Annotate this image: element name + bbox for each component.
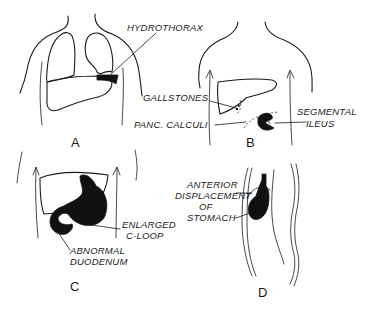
panel-letter-c: C (70, 279, 79, 294)
lung-right-a (85, 33, 113, 74)
label-panc-calculi: PANC. CALCULI (134, 119, 208, 130)
body-back-outer-d (290, 164, 295, 284)
ileus-leader (275, 122, 306, 123)
liver-a (47, 76, 112, 111)
stomach-fill-d (248, 174, 269, 219)
stomach-leader (236, 213, 250, 218)
liver-b (218, 79, 277, 114)
flank-right-a (122, 68, 123, 125)
flank-right-c-arrow (113, 167, 120, 175)
flank-left-b-arrow (206, 70, 213, 78)
body-front-inner-d (247, 168, 256, 276)
stomach-fill-c (64, 175, 107, 226)
torso-outline-b-right (265, 22, 312, 92)
label-gallstones: GALLSTONES (143, 92, 209, 103)
segmental-ileus-fill (258, 113, 274, 130)
panel-letter-d: D (258, 285, 267, 300)
flank-right-b-arrow (287, 70, 294, 78)
flank-right-c (116, 168, 117, 238)
flank-left-b (209, 72, 210, 145)
panel-letter-a: A (71, 135, 80, 150)
hydrothorax-leader (108, 33, 156, 77)
body-mid-d (272, 170, 284, 264)
flank-left-a (40, 62, 42, 125)
flank-right-b (290, 72, 292, 145)
gallbladder-dash (236, 100, 241, 114)
torso-line-c-left (17, 152, 22, 183)
panel-letter-b: B (246, 135, 255, 150)
label-of: OF (199, 201, 214, 212)
panel-b: GALLSTONES PANC. CALCULI SEGMENTAL ILEUS… (134, 22, 357, 150)
label-anterior: ANTERIOR (186, 179, 238, 190)
gallstone-dot (238, 105, 240, 107)
torso-outline-b-left (199, 22, 238, 88)
torso-line-c-right (135, 150, 137, 180)
lung-left-a (47, 33, 75, 82)
medical-diagram: HYDROTHORAX A GALLSTONES PANC. CALCULI S… (0, 0, 371, 311)
gallstones-leader (210, 101, 236, 108)
label-segmental: SEGMENTAL (297, 106, 357, 117)
panel-d: ANTERIOR DISPLACEMENT OF STOMACH D (175, 164, 299, 300)
label-hydrothorax: HYDROTHORAX (127, 22, 204, 33)
label-stomach: STOMACH (187, 212, 236, 223)
hydrothorax-fill (97, 75, 118, 84)
label-ileus: ILEUS (306, 118, 335, 129)
label-abnormal: ABNORMAL (69, 245, 125, 256)
panel-c: ENLARGED C-LOOP ABNORMAL DUODENUM C (17, 150, 176, 294)
label-duodenum: DUODENUM (70, 256, 128, 267)
label-displacement: DISPLACEMENT (175, 190, 252, 201)
duodenum-fill-c (50, 206, 73, 234)
c-loop-leader (84, 224, 120, 229)
label-c-loop: C-LOOP (126, 230, 164, 241)
panc-calculi-leader (215, 122, 246, 125)
label-enlarged: ENLARGED (122, 219, 176, 230)
flank-left-c (36, 168, 38, 238)
torso-outline-a (20, 16, 68, 93)
